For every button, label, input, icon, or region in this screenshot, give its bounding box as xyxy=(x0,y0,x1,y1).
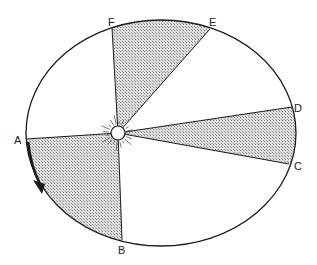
sun-ray xyxy=(120,142,121,148)
sun-ray xyxy=(114,115,116,124)
sun-ray xyxy=(126,127,129,129)
label-b: B xyxy=(118,244,125,256)
sun-ray xyxy=(110,120,113,125)
sun-ray xyxy=(103,132,109,133)
sun-ray xyxy=(125,139,132,145)
sun-ray xyxy=(126,137,132,139)
sun-ray xyxy=(102,126,110,130)
label-e: E xyxy=(209,16,216,28)
sun-ray xyxy=(109,125,111,127)
sector-c-d xyxy=(118,107,310,166)
label-f: F xyxy=(108,16,115,28)
label-d: D xyxy=(294,102,302,114)
sector-a-b xyxy=(10,133,122,262)
sun-ray xyxy=(123,141,125,144)
label-c: C xyxy=(294,160,302,172)
label-a: A xyxy=(14,134,22,146)
orbit-diagram: A B C D E F xyxy=(0,0,317,265)
